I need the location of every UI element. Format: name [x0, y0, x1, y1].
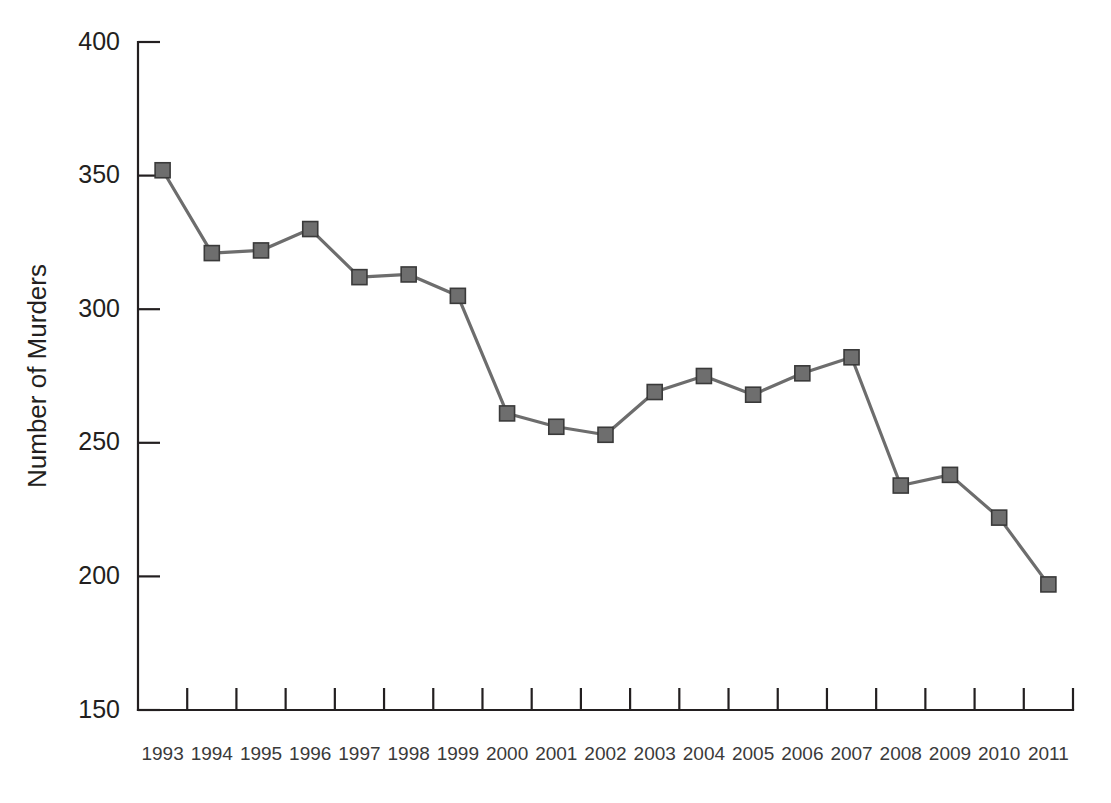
x-axis-tick-label: 1998: [388, 743, 430, 764]
x-axis-tick-label: 1993: [141, 743, 183, 764]
x-axis-tick-label: 2009: [929, 743, 971, 764]
data-point-marker: 2006: 276: [795, 366, 810, 381]
data-point-marker: 2011: 197: [1041, 577, 1056, 592]
data-point-marker: 2009: 238: [942, 467, 957, 482]
x-axis-tick-label: 2008: [880, 743, 922, 764]
data-point-marker: 1994: 321: [204, 246, 219, 261]
murders-line-chart: 150200250300350400 199319941995199619971…: [0, 0, 1111, 803]
x-axis-tick-label: 1999: [437, 743, 479, 764]
y-axis-tick-label: 150: [78, 695, 120, 723]
y-axis-tick-label: 250: [78, 427, 120, 455]
x-axis-tick-label: 1995: [240, 743, 282, 764]
x-axis-tick-label: 2001: [535, 743, 577, 764]
x-axis-tick-label: 2007: [830, 743, 872, 764]
data-point-marker: 1999: 305: [450, 288, 465, 303]
chart-container: 150200250300350400 199319941995199619971…: [0, 0, 1111, 803]
data-point-marker: 1998: 313: [401, 267, 416, 282]
y-axis-title: Number of Murders: [22, 264, 52, 488]
x-axis-tick-label: 2005: [732, 743, 774, 764]
x-axis-tick-label: 2011: [1028, 743, 1069, 764]
chart-background: [0, 0, 1111, 803]
data-point-marker: 1996: 330: [303, 222, 318, 237]
data-point-marker: 2003: 269: [647, 385, 662, 400]
data-point-marker: 2010: 222: [992, 510, 1007, 525]
x-axis-tick-labels: 1993199419951996199719981999200020012002…: [141, 743, 1068, 764]
data-point-marker: 1995: 322: [254, 243, 269, 258]
data-point-marker: 2002: 253: [598, 427, 613, 442]
y-axis-tick-label: 300: [78, 294, 120, 322]
data-point-marker: 1997: 312: [352, 270, 367, 285]
y-axis-tick-label: 200: [78, 561, 120, 589]
x-axis-tick-label: 1997: [338, 743, 380, 764]
data-point-marker: 2008: 234: [893, 478, 908, 493]
data-point-marker: 2005: 268: [746, 387, 761, 402]
x-axis-tick-label: 2002: [584, 743, 626, 764]
data-point-marker: 2001: 256: [549, 419, 564, 434]
y-axis-tick-label: 400: [78, 27, 120, 55]
data-point-marker: 2000: 261: [500, 406, 515, 421]
data-point-marker: 2007: 282: [844, 350, 859, 365]
x-axis-tick-label: 2010: [978, 743, 1020, 764]
x-axis-tick-label: 2003: [634, 743, 676, 764]
x-axis-tick-label: 2000: [486, 743, 528, 764]
x-axis-tick-label: 1994: [191, 743, 234, 764]
x-axis-tick-label: 2004: [683, 743, 726, 764]
x-axis-tick-label: 2006: [781, 743, 823, 764]
x-axis-tick-label: 1996: [289, 743, 331, 764]
data-point-marker: 2004: 275: [696, 369, 711, 384]
y-axis-tick-label: 350: [78, 160, 120, 188]
data-point-marker: 1993: 352: [155, 163, 170, 178]
